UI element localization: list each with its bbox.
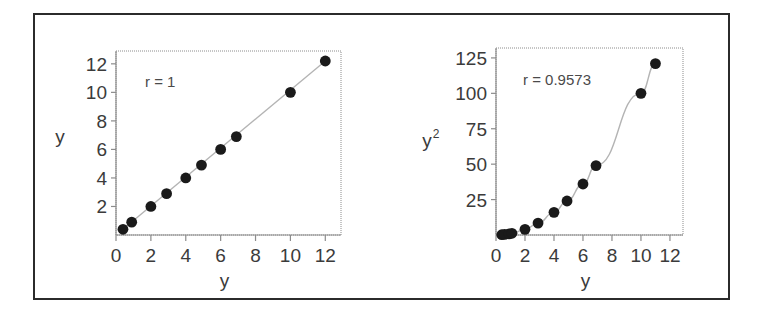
data-point — [215, 144, 226, 155]
x-axis-title: y — [220, 270, 230, 291]
y-axis-title: y2 — [422, 127, 439, 151]
x-axis-tick-label: 10 — [280, 245, 301, 266]
data-point — [650, 58, 661, 69]
correlation-annotation: r = 1 — [145, 73, 175, 90]
data-point — [520, 224, 531, 235]
data-point — [533, 218, 544, 229]
figure-root: 24681012024681012yyr = 1 255075100125024… — [0, 0, 764, 319]
y-axis-tick-label: 12 — [86, 54, 107, 75]
data-point — [161, 188, 172, 199]
x-axis-tick-label: 0 — [491, 245, 502, 266]
data-point — [507, 228, 518, 239]
y-axis-tick-label: 75 — [466, 119, 487, 140]
data-point — [562, 196, 573, 207]
data-point — [231, 131, 242, 142]
chart-panel-left: 24681012024681012yyr = 1 — [35, 15, 383, 302]
data-point — [126, 217, 137, 228]
data-point — [636, 88, 647, 99]
x-axis-tick-label: 6 — [215, 245, 226, 266]
y-axis-title: y — [55, 126, 65, 147]
data-point — [320, 56, 331, 67]
x-axis-tick-label: 2 — [146, 245, 157, 266]
scatter-plot-left: 24681012024681012yyr = 1 — [35, 15, 383, 302]
x-axis-tick-label: 10 — [630, 245, 651, 266]
x-axis-tick-label: 4 — [549, 245, 560, 266]
x-axis-tick-label: 12 — [315, 245, 336, 266]
y-axis-title-exponent: 2 — [433, 127, 440, 141]
data-point — [578, 179, 589, 190]
figure-outer-border: 24681012024681012yyr = 1 255075100125024… — [33, 13, 730, 300]
x-axis-tick-label: 8 — [607, 245, 618, 266]
data-point — [180, 173, 191, 184]
data-point — [145, 201, 156, 212]
scatter-plot-right: 255075100125024681012yy2r = 0.9573 — [383, 15, 730, 302]
x-axis-tick-label: 4 — [180, 245, 191, 266]
x-axis-tick-label: 8 — [250, 245, 261, 266]
data-point — [549, 207, 560, 218]
y-axis-tick-label: 125 — [455, 48, 487, 69]
data-point — [118, 224, 129, 235]
y-axis-tick-label: 50 — [466, 154, 487, 175]
x-axis-tick-label: 0 — [111, 245, 122, 266]
data-point — [285, 87, 296, 98]
x-axis-tick-label: 6 — [578, 245, 589, 266]
y-axis-tick-label: 4 — [96, 168, 107, 189]
y-axis-tick-label: 25 — [466, 190, 487, 211]
y-axis-tick-label: 8 — [96, 111, 107, 132]
correlation-annotation: r = 0.9573 — [523, 71, 591, 88]
y-axis-tick-label: 2 — [96, 196, 107, 217]
y-axis-title-base: y — [422, 130, 432, 151]
x-axis-tick-label: 12 — [659, 245, 680, 266]
chart-panel-right: 255075100125024681012yy2r = 0.9573 — [383, 15, 730, 302]
y-axis-tick-label: 10 — [86, 82, 107, 103]
y-axis-tick-label: 100 — [455, 83, 487, 104]
x-axis-title: y — [581, 270, 591, 291]
y-axis-tick-label: 6 — [96, 139, 107, 160]
data-point — [196, 160, 207, 171]
x-axis-tick-label: 2 — [520, 245, 531, 266]
data-point — [591, 160, 602, 171]
